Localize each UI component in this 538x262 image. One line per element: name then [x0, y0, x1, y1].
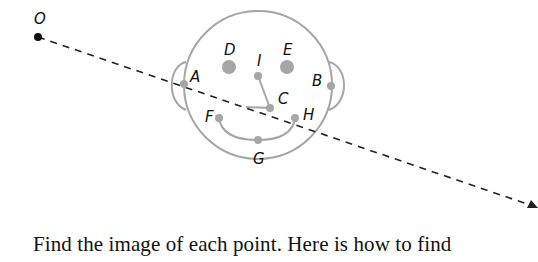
point-b — [327, 82, 335, 90]
label-i: I — [257, 52, 262, 70]
label-f: F — [205, 108, 214, 126]
point-i — [254, 72, 262, 80]
point-f — [215, 114, 223, 122]
eye-d — [222, 60, 236, 74]
dilation-figure: O ABCDEFGHI — [0, 0, 538, 225]
label-c: C — [278, 90, 289, 108]
nose-line-ic — [258, 76, 270, 108]
label-d: D — [224, 41, 236, 59]
label-e: E — [283, 41, 293, 59]
point-g — [254, 136, 262, 144]
label-a: A — [189, 68, 200, 86]
point-h — [291, 114, 299, 122]
caption-text: Find the image of each point. Here is ho… — [33, 232, 451, 257]
label-b: B — [312, 72, 322, 90]
label-g: G — [253, 150, 265, 168]
ray-arrowhead-icon — [527, 200, 538, 208]
point-a — [180, 80, 188, 88]
point-c — [266, 104, 274, 112]
label-o: O — [34, 10, 46, 28]
center-point-o — [34, 33, 42, 41]
eye-e — [280, 60, 294, 74]
labeled-points: ABCDEFGHI — [180, 41, 335, 168]
label-h: H — [303, 106, 314, 124]
